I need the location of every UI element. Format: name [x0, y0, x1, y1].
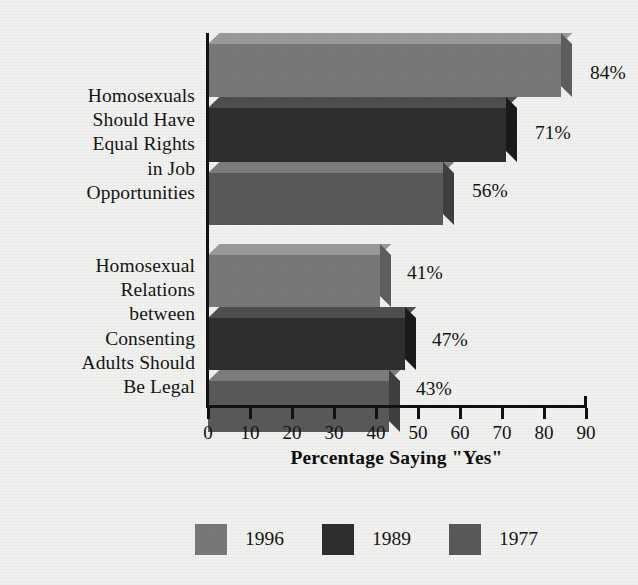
bar-side-face — [443, 162, 454, 225]
chart-container: Homosexuals Should Have Equal Rights in … — [0, 0, 638, 585]
bar-top-face — [208, 162, 454, 173]
legend-item-1989[interactable]: 1989 — [322, 524, 411, 555]
x-tick-label: 20 — [272, 422, 312, 444]
x-tick — [291, 408, 294, 419]
bar-value-label: 41% — [407, 262, 443, 284]
bar-value-label: 47% — [432, 329, 468, 351]
bar-side-face — [506, 97, 517, 162]
bar-top-face — [208, 97, 517, 108]
category-label-1: Homosexual Relations between Consenting … — [82, 254, 195, 399]
bar-top-face — [208, 370, 400, 381]
x-tick-label: 10 — [230, 422, 270, 444]
bar-top-face — [208, 244, 391, 255]
legend-swatch-icon — [195, 524, 227, 555]
bar-front-face — [208, 173, 443, 225]
legend-label: 1977 — [499, 528, 538, 550]
x-tick — [459, 408, 462, 419]
bar-value-label: 84% — [590, 62, 626, 84]
bar-side-face — [561, 33, 572, 97]
x-tick-label: 50 — [398, 422, 438, 444]
category-label-0: Homosexuals Should Have Equal Rights in … — [86, 84, 195, 205]
chart-plot-area: Homosexuals Should Have Equal Rights in … — [0, 0, 638, 585]
x-tick — [375, 408, 378, 419]
bar-value-label: 71% — [535, 122, 571, 144]
bar-front-face — [208, 318, 405, 370]
x-tick-label: 60 — [440, 422, 480, 444]
bar-value-label: 43% — [416, 378, 452, 400]
bar-side-face — [405, 307, 416, 370]
x-tick — [417, 408, 420, 419]
bar-side-face — [380, 244, 391, 307]
bar-top-face — [208, 307, 416, 318]
x-tick — [585, 408, 588, 419]
x-tick-label: 40 — [356, 422, 396, 444]
y-axis-line — [206, 33, 209, 408]
x-tick — [333, 408, 336, 419]
x-tick-label: 30 — [314, 422, 354, 444]
x-axis-end-cap — [584, 396, 587, 408]
legend-swatch-icon — [449, 524, 481, 555]
x-tick-label: 80 — [524, 422, 564, 444]
legend-swatch-icon — [322, 524, 354, 555]
x-tick-label: 90 — [566, 422, 606, 444]
legend-item-1977[interactable]: 1977 — [449, 524, 538, 555]
x-axis-line — [206, 405, 587, 408]
x-tick-label: 70 — [482, 422, 522, 444]
bar-front-face — [208, 44, 561, 97]
chart-legend: 199619891977 — [195, 519, 615, 559]
bar-front-face — [208, 108, 506, 162]
bar-front-face — [208, 255, 380, 307]
legend-item-1996[interactable]: 1996 — [195, 524, 284, 555]
x-tick — [207, 408, 210, 419]
x-axis-title: Percentage Saying "Yes" — [206, 447, 587, 469]
bar-value-label: 56% — [472, 180, 508, 202]
bar-top-face — [208, 33, 572, 44]
x-tick — [543, 408, 546, 419]
x-tick — [501, 408, 504, 419]
x-tick-label: 0 — [188, 422, 228, 444]
x-tick — [249, 408, 252, 419]
legend-label: 1989 — [372, 528, 411, 550]
legend-label: 1996 — [245, 528, 284, 550]
